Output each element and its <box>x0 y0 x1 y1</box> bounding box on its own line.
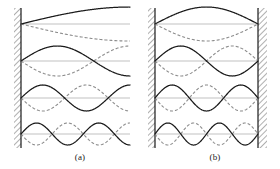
panel-a-mode-3 <box>21 85 130 111</box>
panel-a-left-wall-hatching <box>14 8 21 148</box>
panel-b-right-wall-hatching <box>258 8 267 148</box>
panel-b-left-wall-hatching <box>148 8 155 148</box>
figure-canvas <box>0 0 280 169</box>
panel-b-mode-1-solid-wave <box>155 7 258 24</box>
panel-b-right-wall <box>258 8 267 148</box>
panel-a-mode-4 <box>21 123 130 145</box>
standing-wave-figure: (a) (b) <box>0 0 280 169</box>
panel-a <box>21 7 130 145</box>
panel-b-mode-1 <box>155 7 258 41</box>
walls-layer <box>14 8 267 148</box>
panel-b-caption: (b) <box>185 152 245 162</box>
panel-b-mode-3 <box>155 85 258 111</box>
panel-b-left-wall <box>148 8 155 148</box>
curves-layer <box>21 7 258 145</box>
panel-b-mode-2 <box>155 46 258 76</box>
panel-b-mode-1-dashed-wave <box>155 24 258 41</box>
panel-b <box>155 7 258 145</box>
panel-a-mode-2 <box>21 46 130 76</box>
panel-a-mode-1-solid-wave <box>21 7 130 24</box>
panel-b-mode-4 <box>155 123 258 145</box>
panel-a-mode-1 <box>21 7 130 41</box>
panel-a-left-wall <box>14 8 21 148</box>
panel-a-caption: (a) <box>50 152 110 162</box>
panel-a-mode-1-dashed-wave <box>21 24 130 41</box>
